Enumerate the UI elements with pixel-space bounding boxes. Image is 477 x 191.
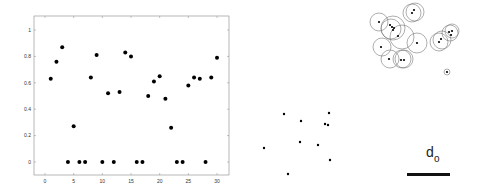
data-point <box>89 76 93 80</box>
data-point <box>106 91 110 95</box>
plot-axes-box <box>34 16 229 175</box>
data-point <box>140 160 144 164</box>
point <box>393 27 395 29</box>
data-point <box>192 76 196 80</box>
point <box>329 159 331 161</box>
data-point <box>83 160 87 164</box>
point <box>446 71 448 73</box>
data-point <box>135 160 139 164</box>
scale-bar-line <box>407 173 450 176</box>
x-tick-label: 10 <box>100 178 106 184</box>
point <box>450 34 452 36</box>
point <box>416 42 418 44</box>
y-tick-label: 0.4 <box>24 106 31 112</box>
scale-bar-label: d <box>426 144 434 160</box>
radius-circle <box>406 3 424 21</box>
y-tick-label: 0 <box>28 159 31 165</box>
circle-cluster-panel <box>370 3 459 75</box>
data-point <box>163 97 167 101</box>
point <box>411 12 413 14</box>
data-point <box>152 79 156 83</box>
y-tick-label: 0.2 <box>24 132 31 138</box>
data-point <box>158 74 162 78</box>
data-point <box>66 160 70 164</box>
data-point <box>95 53 99 57</box>
x-tick-label: 5 <box>72 178 75 184</box>
point <box>448 31 450 33</box>
data-point <box>198 77 202 81</box>
data-point <box>54 60 58 64</box>
radius-circle <box>442 25 458 41</box>
point <box>388 58 390 60</box>
point <box>327 124 329 126</box>
data-point <box>181 160 185 164</box>
data-point <box>215 56 219 60</box>
point <box>299 141 301 143</box>
point-set-panel <box>263 112 331 175</box>
point <box>283 113 285 115</box>
data-point <box>146 94 150 98</box>
data-point <box>186 83 190 87</box>
point <box>317 144 319 146</box>
data-point <box>204 160 208 164</box>
radius-circle <box>393 50 411 68</box>
scatter-plot-panel: 00.20.40.60.81 051015202530 <box>24 16 229 184</box>
data-point <box>169 126 173 130</box>
data-point <box>60 45 64 49</box>
data-point <box>123 50 127 54</box>
point <box>451 30 453 32</box>
y-tick-label: 0.8 <box>24 53 31 59</box>
x-tick-label: 25 <box>186 178 192 184</box>
point <box>389 24 391 26</box>
point <box>324 123 326 125</box>
scale-bar: d o <box>407 144 450 176</box>
point <box>300 120 302 122</box>
point <box>400 59 402 61</box>
data-point <box>49 77 53 81</box>
point <box>403 59 405 61</box>
data-point <box>100 160 104 164</box>
point <box>391 26 393 28</box>
data-point <box>77 160 81 164</box>
data-point <box>112 160 116 164</box>
y-tick-label: 1 <box>28 27 31 33</box>
y-tick-label: 0.6 <box>24 80 31 86</box>
point <box>263 147 265 149</box>
data-point <box>118 90 122 94</box>
point <box>380 46 382 48</box>
scale-bar-label-subscript: o <box>434 153 440 164</box>
point <box>392 29 394 31</box>
x-tick-label: 20 <box>157 178 163 184</box>
point <box>413 9 415 11</box>
data-point <box>129 54 133 58</box>
data-point <box>209 76 213 80</box>
point <box>440 38 442 40</box>
data-point <box>175 160 179 164</box>
point <box>287 173 289 175</box>
figure-canvas: 00.20.40.60.81 051015202530 d o <box>0 0 477 191</box>
point <box>378 21 380 23</box>
x-tick-label: 15 <box>128 178 134 184</box>
circle-cluster-points <box>378 9 453 73</box>
x-tick-label: 0 <box>44 178 47 184</box>
point <box>328 112 330 114</box>
data-point <box>72 124 76 128</box>
point <box>397 35 399 37</box>
point <box>438 41 440 43</box>
x-tick-label: 30 <box>214 178 220 184</box>
